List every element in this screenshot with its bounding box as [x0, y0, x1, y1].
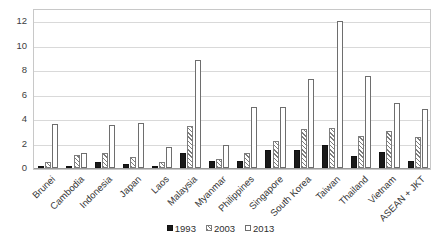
y-axis-tick-label: 6	[1, 90, 27, 100]
outline-white-square-icon	[245, 225, 251, 231]
bar	[123, 164, 129, 168]
bar	[273, 141, 279, 168]
bar	[386, 131, 392, 168]
bar-group	[351, 9, 371, 168]
bar	[66, 166, 72, 168]
bar	[265, 150, 271, 168]
bar	[415, 137, 421, 168]
bar	[209, 161, 215, 168]
bar	[351, 156, 357, 168]
bar	[422, 109, 428, 168]
bar	[244, 153, 250, 168]
y-axis-tick-label: 0	[1, 163, 27, 173]
bar	[81, 153, 87, 168]
legend-item: 2013	[245, 222, 274, 234]
bar	[379, 152, 385, 168]
bar	[337, 21, 343, 168]
bar	[187, 126, 193, 168]
legend-label: 1993	[175, 223, 196, 234]
bar	[180, 153, 186, 168]
bar	[216, 159, 222, 168]
bar-group	[294, 9, 314, 168]
bar-group	[379, 9, 399, 168]
bar-group	[408, 9, 428, 168]
bar-group	[265, 9, 285, 168]
legend-label: 2003	[214, 223, 235, 234]
bar-group	[209, 9, 229, 168]
bar	[394, 103, 400, 168]
bar	[195, 60, 201, 168]
legend-item: 1993	[167, 222, 196, 234]
bar	[109, 125, 115, 168]
bar	[308, 79, 314, 168]
bar-chart: 024681012 BruneiCambodiaIndonesiaJapanLa…	[0, 0, 441, 243]
bar	[95, 162, 101, 168]
bar-group	[123, 9, 143, 168]
plot-area	[33, 9, 431, 170]
filled-black-square-icon	[167, 225, 173, 231]
bar	[52, 124, 58, 168]
bar	[138, 123, 144, 168]
bar	[365, 76, 371, 168]
bar-group	[152, 9, 172, 168]
bar	[251, 107, 257, 168]
bar	[152, 166, 158, 168]
bar-group	[180, 9, 200, 168]
chart-legend: 199320032013	[0, 222, 441, 234]
bar	[130, 157, 136, 168]
bar	[102, 153, 108, 168]
x-axis-line	[34, 168, 430, 169]
bar	[166, 147, 172, 168]
legend-item: 2003	[206, 222, 235, 234]
bar	[408, 161, 414, 168]
bar-group	[322, 9, 342, 168]
y-axis-tick-label: 2	[1, 139, 27, 149]
bar-group	[66, 9, 86, 168]
bar	[237, 161, 243, 168]
bar	[322, 145, 328, 168]
x-axis-category-label: Thailand	[337, 174, 370, 207]
bar	[294, 150, 300, 168]
bar	[38, 166, 44, 168]
y-axis-tick-label: 10	[1, 41, 27, 51]
bar	[223, 145, 229, 168]
bar	[159, 162, 165, 168]
bar	[358, 136, 364, 168]
y-axis-tick-label: 4	[1, 114, 27, 124]
y-axis-tick-label: 12	[1, 16, 27, 26]
bar-group	[95, 9, 115, 168]
hatched-square-icon	[206, 225, 212, 231]
y-axis-tick-label: 8	[1, 65, 27, 75]
bar	[329, 128, 335, 168]
bar-group	[38, 9, 58, 168]
x-axis-category-label: Laos	[149, 174, 171, 196]
bar-group	[237, 9, 257, 168]
bar	[45, 162, 51, 168]
legend-label: 2013	[253, 223, 274, 234]
bar	[301, 129, 307, 168]
bar	[74, 155, 80, 168]
x-axis-category-label: Japan	[117, 174, 142, 199]
bar	[280, 107, 286, 168]
